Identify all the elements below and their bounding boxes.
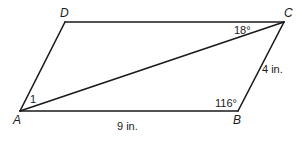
vertex-label-d: D (60, 7, 69, 19)
vertex-label-b: B (233, 114, 241, 126)
side-bc-length-label: 4 in. (262, 64, 283, 75)
angle-1-label: 1 (30, 94, 36, 105)
side-ab-length-label: 9 in. (117, 121, 138, 132)
angle-dca-label: 18° (234, 25, 251, 36)
vertex-label-c: C (284, 7, 293, 19)
vertex-label-a: A (13, 114, 21, 126)
angle-b-label: 116° (215, 98, 237, 109)
parallelogram-diagram (0, 0, 302, 141)
